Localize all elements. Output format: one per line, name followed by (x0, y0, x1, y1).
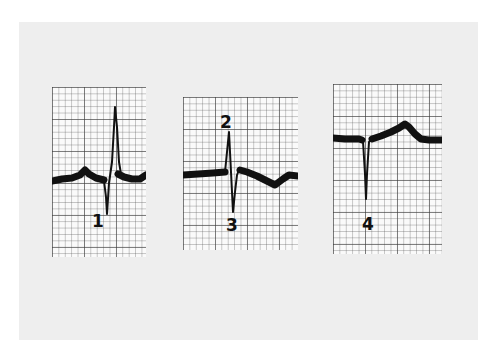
ecg-panel-2 (183, 97, 298, 250)
ecg-trace-2 (183, 97, 298, 250)
figure-description: Three ECG waveform strips on grid paper … (0, 0, 1, 1)
point-label-1: 1 (92, 213, 104, 230)
ecg-panel-3 (333, 84, 442, 254)
ecg-trace-3 (333, 84, 442, 254)
ecg-panel-1 (52, 87, 146, 257)
ecg-trace-1 (52, 87, 146, 257)
point-label-2: 2 (220, 114, 232, 131)
point-label-4: 4 (362, 216, 374, 233)
point-label-3: 3 (226, 217, 238, 234)
